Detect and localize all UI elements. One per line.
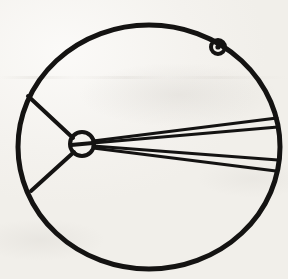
spoke-lower-left <box>31 152 74 191</box>
diagram-canvas <box>0 0 288 279</box>
line-drawing <box>0 0 288 279</box>
bead-center-dot <box>215 44 220 49</box>
hub-inner-bar <box>71 143 93 145</box>
outer-circle <box>18 25 280 269</box>
fan-line-3 <box>93 146 278 160</box>
spoke-upper-left <box>28 96 73 138</box>
